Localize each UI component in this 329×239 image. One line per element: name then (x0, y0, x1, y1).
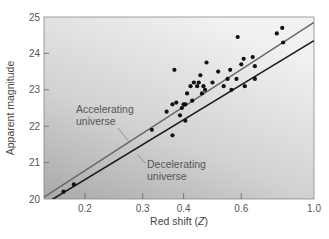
data-point (61, 190, 65, 194)
data-point (174, 100, 178, 104)
data-point (183, 119, 187, 123)
data-point (228, 68, 232, 72)
y-tick-label: 25 (29, 12, 41, 23)
data-point (210, 80, 214, 84)
data-point (236, 35, 240, 39)
data-point (150, 128, 154, 132)
data-point (170, 102, 174, 106)
data-point (203, 88, 207, 92)
scatter-chart: 202122232425 0.20.30.40.61.0 Acceleratin… (0, 0, 329, 239)
data-point (242, 57, 246, 61)
data-point (204, 60, 208, 64)
y-tick-label: 22 (29, 121, 41, 132)
data-point (200, 91, 204, 95)
annotation-decelerating-line2: universe (147, 170, 187, 182)
data-point (253, 77, 257, 81)
data-point (178, 113, 182, 117)
y-tick-label: 23 (29, 84, 41, 95)
data-point (280, 26, 284, 30)
data-point (170, 133, 174, 137)
data-point (165, 110, 169, 114)
annotation-decelerating-line1: Decelerating (147, 158, 206, 170)
x-tick-label: 0.4 (177, 203, 191, 214)
y-tick-label: 24 (29, 48, 41, 59)
data-point (180, 106, 184, 110)
data-point (222, 84, 226, 88)
x-tick-label: 0.3 (136, 203, 150, 214)
data-point (234, 77, 238, 81)
x-tick-label: 0.6 (234, 203, 248, 214)
data-point (192, 80, 196, 84)
data-point (198, 73, 202, 77)
y-axis-title: Apparent magnitude (4, 61, 16, 156)
data-point (190, 99, 194, 103)
data-point (201, 84, 205, 88)
x-tick-label: 1.0 (307, 203, 321, 214)
data-point (216, 70, 220, 74)
data-point (183, 102, 187, 106)
data-point (243, 84, 247, 88)
x-tick-label: 0.2 (78, 203, 92, 214)
data-point (188, 84, 192, 88)
data-point (229, 88, 233, 92)
data-point (185, 91, 189, 95)
y-tick-label: 20 (29, 194, 41, 205)
data-point (72, 182, 76, 186)
data-point (195, 84, 199, 88)
data-point (281, 40, 285, 44)
data-point (251, 55, 255, 59)
data-point (172, 68, 176, 72)
annotation-accelerating-line2: universe (76, 115, 116, 127)
data-point (239, 62, 243, 66)
x-axis-title: Red shift (Z) (150, 215, 208, 227)
data-point (197, 80, 201, 84)
annotation-accelerating-line1: Accelerating (76, 103, 134, 115)
data-point (275, 31, 279, 35)
data-point (226, 77, 230, 81)
data-point (253, 64, 257, 68)
y-tick-label: 21 (29, 157, 41, 168)
